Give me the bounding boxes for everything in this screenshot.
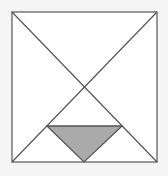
geometry-diagram [0, 0, 168, 176]
diagram-svg [0, 0, 168, 176]
